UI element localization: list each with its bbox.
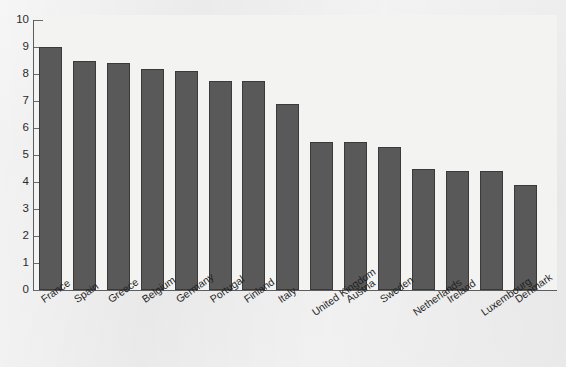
y-axis-tick-label: 2 — [0, 230, 29, 242]
y-axis-tick-label: 6 — [0, 122, 29, 134]
y-axis-tick-label-text: 6 — [3, 122, 29, 134]
bar — [344, 142, 367, 291]
y-axis-tick-label-text: 5 — [3, 149, 29, 161]
y-axis-tick — [34, 290, 43, 291]
y-axis-tick-label-text: 10 — [3, 14, 29, 26]
bar — [310, 142, 333, 291]
y-axis-tick-label: 9 — [0, 41, 29, 53]
y-axis-tick-label: 5 — [0, 149, 29, 161]
y-axis-tick-label-text: 1 — [3, 257, 29, 269]
bar — [209, 81, 232, 290]
bar — [141, 69, 164, 290]
chart-title — [14, 0, 554, 2]
y-axis-tick-label: 3 — [0, 203, 29, 215]
bar — [378, 147, 401, 290]
bar-chart-figure: 012345678910 FranceSpainGreeceBelgiumGer… — [0, 0, 566, 367]
y-axis-tick-label: 1 — [0, 257, 29, 269]
bar — [412, 169, 435, 291]
bar — [107, 63, 130, 290]
y-axis-tick-label: 4 — [0, 176, 29, 188]
bar — [73, 61, 96, 291]
bar — [480, 171, 503, 290]
y-axis-tick-label: 7 — [0, 95, 29, 107]
y-axis-tick-label-text: 0 — [3, 284, 29, 296]
bar — [242, 81, 265, 290]
bar — [276, 104, 299, 290]
y-axis-tick-label: 0 — [0, 284, 29, 296]
y-axis-tick-label: 8 — [0, 68, 29, 80]
y-axis-tick — [34, 20, 43, 21]
y-axis-tick-label-text: 3 — [3, 203, 29, 215]
bar — [175, 71, 198, 290]
y-axis-tick-label-text: 7 — [3, 95, 29, 107]
y-axis-tick-label-text: 2 — [3, 230, 29, 242]
y-axis-tick-label: 10 — [0, 14, 29, 26]
y-axis-tick-label-text: 9 — [3, 41, 29, 53]
bar — [446, 171, 469, 290]
y-axis-tick-label-text: 8 — [3, 68, 29, 80]
y-axis-tick-label-text: 4 — [3, 176, 29, 188]
bar — [39, 47, 62, 290]
